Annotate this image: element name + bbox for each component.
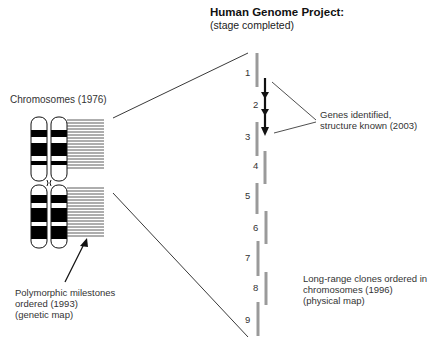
genes-callout (272, 82, 316, 133)
genome-diagram (0, 0, 443, 349)
genetic-markers (67, 120, 104, 236)
gene-arrows-icon (261, 78, 269, 136)
chromosome-bands (31, 130, 67, 239)
arrow-icon (65, 238, 88, 282)
zoom-lines (113, 53, 248, 337)
